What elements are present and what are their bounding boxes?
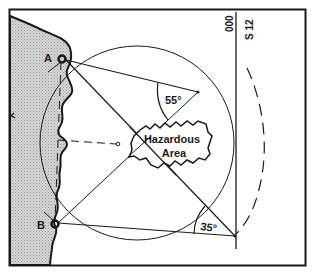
hazard-label-line2: Area [162, 147, 187, 159]
angle-label-55: 55° [165, 94, 182, 106]
vertex-55 [197, 91, 200, 94]
point-a-label: A [44, 52, 52, 64]
circle-center-marker [116, 142, 120, 146]
hazard-label-line1: Hazardous [144, 133, 200, 145]
navigation-diagram: Hazardous Area 55° 35° A B 000 S 12 [0, 0, 316, 274]
course-label: 000 [224, 15, 235, 32]
angle-label-35: 35° [200, 220, 218, 234]
point-b-label: B [37, 219, 45, 231]
speed-label: S 12 [244, 19, 255, 40]
